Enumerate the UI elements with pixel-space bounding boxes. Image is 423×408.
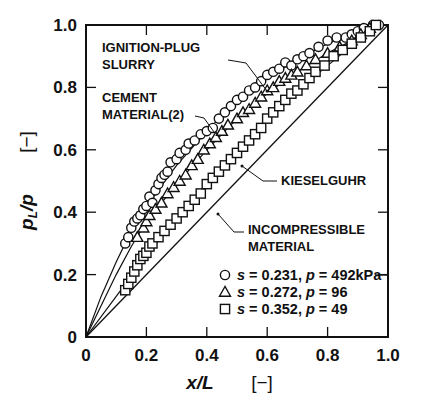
legend: s = 0.231, p = 492kPas = 0.272, p = 96s … bbox=[220, 267, 389, 317]
legend-square-icon bbox=[220, 304, 229, 313]
circle-marker bbox=[163, 167, 172, 176]
annotation-label: MATERIAL bbox=[248, 239, 314, 254]
y-axis-label: pL/p bbox=[16, 194, 40, 231]
legend-label: s = 0.352, p = 49 bbox=[237, 301, 347, 317]
legend-triangle-icon bbox=[220, 287, 231, 297]
circle-marker bbox=[305, 48, 314, 57]
annotation-leader bbox=[218, 214, 244, 232]
circle-marker bbox=[314, 42, 323, 51]
square-marker bbox=[347, 39, 356, 48]
x-tick-label: 1.0 bbox=[376, 346, 400, 365]
annotations: IGNITION-PLUGSLURRYCEMENTMATERIAL(2)KIES… bbox=[102, 40, 367, 254]
x-tick-label: 0.8 bbox=[316, 346, 340, 365]
x-tick-label: 0.6 bbox=[255, 346, 279, 365]
circle-marker bbox=[323, 36, 332, 45]
annotation-leader bbox=[242, 166, 277, 181]
arrow-head-icon bbox=[266, 90, 269, 93]
y-tick-label: 0.2 bbox=[53, 266, 77, 285]
square-marker bbox=[257, 123, 266, 132]
square-marker bbox=[329, 52, 338, 61]
legend-label: s = 0.272, p = 96 bbox=[237, 284, 347, 300]
y-axis-unit: [−] bbox=[16, 131, 37, 153]
y-tick-label: 0.6 bbox=[53, 141, 77, 160]
annotation-label: SLURRY bbox=[102, 57, 155, 72]
x-tick-label: 0.4 bbox=[195, 346, 219, 365]
x-axis-label: x/L bbox=[185, 372, 213, 393]
square-marker bbox=[320, 61, 329, 70]
annotation-label: INCOMPRESSIBLE bbox=[248, 222, 365, 237]
arrow-head-icon bbox=[241, 165, 244, 168]
y-tick-label: 1.0 bbox=[53, 16, 77, 35]
y-tick-label: 0 bbox=[68, 328, 77, 347]
square-marker bbox=[338, 45, 347, 54]
square-marker bbox=[311, 67, 320, 76]
annotation-label: MATERIAL(2) bbox=[102, 107, 184, 122]
y-tick-label: 0.4 bbox=[53, 203, 77, 222]
annotation-label: CEMENT bbox=[102, 90, 157, 105]
legend-circle-icon bbox=[220, 270, 229, 279]
square-marker bbox=[356, 33, 365, 42]
x-tick-label: 0.2 bbox=[135, 346, 159, 365]
triangle-marker bbox=[180, 169, 191, 179]
square-marker bbox=[371, 20, 380, 29]
arrow-head-icon bbox=[217, 213, 220, 216]
legend-label: s = 0.231, p = 492kPa bbox=[237, 267, 382, 283]
y-tick-label: 0.8 bbox=[53, 78, 77, 97]
annotation-label: IGNITION-PLUG bbox=[102, 40, 200, 55]
circle-marker bbox=[124, 233, 133, 242]
x-tick-label: 0 bbox=[81, 346, 90, 365]
x-axis-unit: [−] bbox=[251, 372, 273, 393]
chart: 00.20.40.60.81.000.20.40.60.81.0 IGNITIO… bbox=[0, 0, 423, 408]
square-marker bbox=[196, 189, 205, 198]
annotation-label: KIESELGUHR bbox=[281, 173, 367, 188]
